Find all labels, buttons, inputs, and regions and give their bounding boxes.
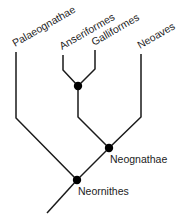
branch-neognathae: [77, 148, 109, 180]
branch-galloanserae: [78, 86, 109, 148]
tip-label-neoaves: Neoaves: [135, 20, 177, 51]
branch-palaeognathae: [16, 52, 77, 180]
phylogenetic-tree: Palaeognathae Anseriformes Galliformes N…: [0, 0, 187, 223]
branch-neoaves: [109, 54, 141, 148]
node-label-neornithes: Neornithes: [78, 185, 129, 197]
node-galloanserae: [74, 82, 82, 90]
node-label-neognathae: Neognathae: [110, 153, 167, 165]
branch-galliformes: [78, 50, 95, 86]
node-neognathae: [105, 144, 113, 152]
root-branch: [47, 180, 77, 213]
branch-anseriformes: [63, 55, 78, 86]
node-neornithes: [73, 176, 81, 184]
